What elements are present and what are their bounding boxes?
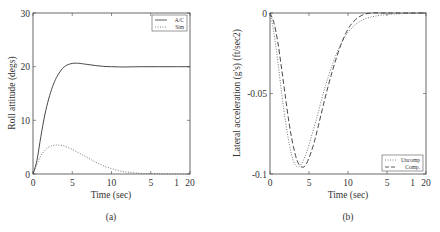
caption-a: (a)	[106, 212, 117, 223]
x-tick-label: 5	[148, 178, 153, 188]
y-tick-label: 0	[25, 170, 30, 180]
y-axis-label-b: Lateral acceleration (g's) (ft/sec2)	[232, 29, 243, 157]
x-tick-label: 5	[307, 178, 312, 188]
y-axis-label-a: Roll attitude (degs)	[7, 56, 18, 129]
plot-frame-a	[33, 13, 190, 174]
series-line-a-c	[33, 63, 190, 174]
x-tick-label: 0	[268, 178, 273, 188]
legend-label-uncomp: Uncomp	[401, 157, 420, 163]
y-tick-label: 10	[21, 116, 31, 126]
y-tick-label: 20	[21, 62, 31, 72]
x-tick-label: 10	[107, 178, 117, 188]
legend-label-ac: A/C	[175, 17, 185, 23]
y-tick-label: 30	[21, 9, 31, 19]
x-tick-label: 0	[31, 178, 36, 188]
plot-lines-a	[33, 63, 190, 174]
x-tick-label: 5	[70, 178, 75, 188]
series-line-sim	[33, 145, 190, 174]
plot-lines-b	[270, 13, 426, 167]
legend-label-sim: Sim	[175, 24, 185, 30]
y-tick-label: 0	[262, 9, 267, 19]
series-line-uncomp	[270, 13, 426, 167]
chart-panel-a: 0102030 05105120 Time (sec) Roll attitud…	[7, 9, 195, 224]
figure: 0102030 05105120 Time (sec) Roll attitud…	[0, 0, 440, 232]
legend-a: A/C Sim	[152, 15, 187, 31]
y-tick-label: -0.1	[252, 170, 267, 180]
plot-frame-b	[270, 13, 426, 174]
legend-label-comp: Comp.	[405, 164, 420, 170]
x-tick-label: 1	[410, 178, 415, 188]
legend-b: Uncomp Comp.	[382, 155, 423, 171]
caption-b: (b)	[342, 212, 353, 223]
x-tick-label: 5	[385, 178, 390, 188]
x-tick-label: 10	[343, 178, 353, 188]
y-tick-label: -0.05	[247, 89, 267, 99]
x-tick-label: 20	[421, 178, 431, 188]
x-axis-label-a: Time (sec)	[91, 190, 132, 201]
x-axis-ticks-a: 05105120	[31, 13, 195, 188]
x-tick-label: 1	[174, 178, 179, 188]
chart-panel-b: -0.1-0.050 05105120 Time (sec) Lateral a…	[232, 9, 431, 224]
y-axis-ticks-a: 0102030	[21, 9, 191, 180]
x-axis-label-b: Time (sec)	[328, 190, 369, 201]
x-tick-label: 20	[185, 178, 195, 188]
series-line-comp	[270, 13, 426, 167]
